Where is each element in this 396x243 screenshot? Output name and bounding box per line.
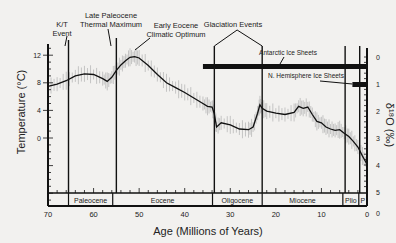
x-tick-label: 0 (365, 210, 369, 219)
y-axis-right-label: δ¹⁸O (‰) (384, 103, 396, 147)
right-tick-label: 2 (376, 108, 380, 115)
epoch-band: PaleoceneEoceneOligoceneMiocenePlioP (48, 193, 367, 206)
epoch-label: P (361, 197, 366, 204)
y-axis-label: Temperature (°C) (15, 70, 27, 154)
x-tick-label: 10 (317, 210, 325, 219)
antarctic-arrow (280, 57, 284, 64)
x-tick-label: 60 (89, 210, 97, 219)
nh-label: N. Hemisphere Ice Sheets (268, 72, 345, 80)
left-tick-label: 8 (37, 79, 41, 86)
epoch-label: Paleocene (74, 197, 107, 204)
paleoclimate-chart: 048120123450706050403020100 PaleoceneEoc… (0, 0, 396, 243)
epoch-label: Miocene (289, 197, 316, 204)
x-tick-label: 20 (272, 210, 280, 219)
glaciation-label: Glaciation Events (204, 20, 263, 29)
left-tick-label: 4 (37, 107, 41, 114)
x-tick-label: 50 (135, 210, 143, 219)
lptm-arrow (108, 29, 111, 46)
left-tick-label: 0 (37, 135, 41, 142)
x-axis-label: Age (Millions of Years) (153, 225, 262, 237)
left-tick-label: 12 (33, 52, 41, 59)
eeco-arrow (135, 38, 150, 50)
kt-event-label: K/T (56, 20, 68, 29)
x-tick-label: 70 (44, 210, 52, 219)
epoch-label: Eocene (151, 197, 175, 204)
epoch-label: Plio (345, 197, 357, 204)
right-tick-label: 3 (376, 135, 380, 142)
antarctic-ice-bar (203, 64, 367, 69)
eeco-label: Early Eocene (154, 21, 199, 30)
right-tick-label: 1 (376, 81, 380, 88)
right-tick-label: 0 (376, 54, 380, 61)
x-tick-label: 30 (226, 210, 234, 219)
glaciation-arrows (214, 30, 262, 46)
epoch-label: Oligocene (222, 197, 254, 205)
right-tick-label: 5 (376, 189, 380, 196)
nh-ice-bar (352, 82, 367, 87)
eeco-label-2: Climatic Optimum (146, 30, 205, 39)
lptm-label-2: Thermal Maximum (80, 20, 142, 29)
nh-arrow (320, 81, 352, 84)
antarctic-label: Antarctic Ice Sheets (259, 49, 318, 56)
kt-event-label-2: Event (52, 29, 72, 38)
lptm-label: Late Paleocene (85, 11, 137, 20)
x-tick-label: 40 (181, 210, 189, 219)
annotations: K/T Event Late Paleocene Thermal Maximum… (15, 11, 396, 237)
right-tick-label: 4 (376, 162, 380, 169)
right-tick-label: 0 (376, 210, 380, 217)
